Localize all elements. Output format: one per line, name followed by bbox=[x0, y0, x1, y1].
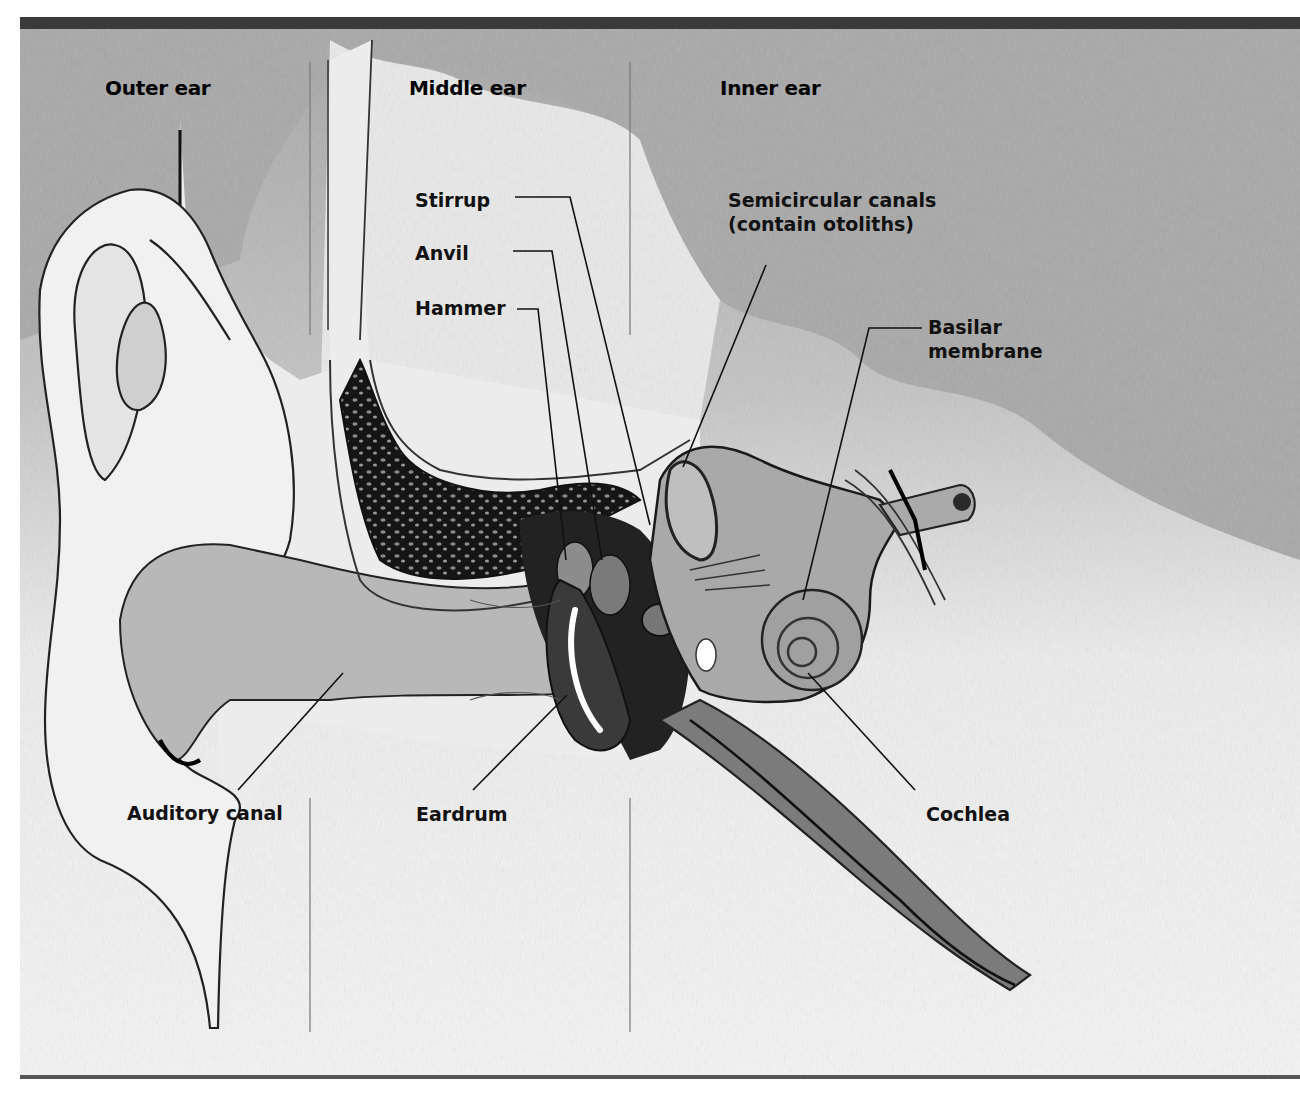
label-anvil: Anvil bbox=[415, 241, 469, 265]
anvil-bone bbox=[590, 555, 630, 615]
bottom-border-bar bbox=[20, 1075, 1300, 1079]
header-inner-ear: Inner ear bbox=[720, 76, 821, 100]
label-basilar-membrane: membrane bbox=[928, 339, 1043, 363]
header-outer-ear: Outer ear bbox=[105, 76, 210, 100]
label-stirrup: Stirrup bbox=[415, 188, 490, 212]
cochlea-shape bbox=[762, 590, 862, 690]
label-auditory-canal: Auditory canal bbox=[127, 801, 283, 825]
round-window bbox=[696, 639, 716, 671]
header-middle-ear: Middle ear bbox=[409, 76, 526, 100]
ear-anatomy-illustration bbox=[0, 0, 1300, 1093]
label-hammer: Hammer bbox=[415, 296, 506, 320]
label-semicircular-canals: Semicircular canals bbox=[728, 188, 936, 212]
label-eardrum: Eardrum bbox=[416, 802, 507, 826]
label-semicircular-canals-note: (contain otoliths) bbox=[728, 212, 914, 236]
label-cochlea: Cochlea bbox=[926, 802, 1010, 826]
label-basilar: Basilar bbox=[928, 315, 1002, 339]
